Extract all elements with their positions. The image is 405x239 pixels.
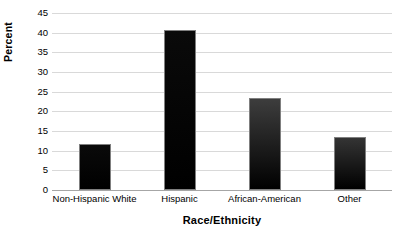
gridline [52,33,392,34]
y-axis-title: Percent [2,2,18,82]
x-axis-tick-label: Hispanic [137,193,222,205]
y-axis-tick-label: 25 [22,87,48,97]
bar [164,30,196,190]
y-axis-tick-label: 45 [22,8,48,18]
y-axis-tick-label: 20 [22,106,48,116]
y-axis-tick-labels: 051015202530354045 [22,13,48,190]
x-axis-tick-label: Non-Hispanic White [52,193,137,205]
gridline [52,111,392,112]
x-axis-tick-label: African-American [222,193,307,205]
y-axis-tick-label: 0 [22,185,48,195]
y-axis-tick-label: 30 [22,67,48,77]
gridline [52,52,392,53]
gridline [52,72,392,73]
x-axis-title: Race/Ethnicity [52,214,392,226]
x-axis-tick-label: Other [307,193,392,205]
bar-chart: Percent 051015202530354045 Non-Hispanic … [0,0,405,239]
axis-zero-line [52,190,392,191]
y-axis-tick-label: 35 [22,47,48,57]
gridline [52,92,392,93]
y-axis-tick-label: 10 [22,146,48,156]
gridline [52,131,392,132]
y-axis-tick-label: 40 [22,28,48,38]
bar [249,98,281,190]
plot-area [52,13,392,190]
y-axis-tick-label: 5 [22,165,48,175]
x-axis-tick-labels: Non-Hispanic WhiteHispanicAfrican-Americ… [52,193,392,209]
bar [334,137,366,190]
y-axis-tick-label: 15 [22,126,48,136]
gridline [52,13,392,14]
bar [79,144,111,190]
